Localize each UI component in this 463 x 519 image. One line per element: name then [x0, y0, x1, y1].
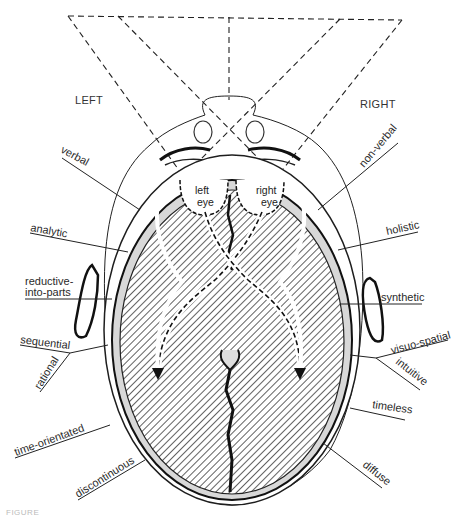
- left-eye-label-line1: left: [195, 184, 209, 196]
- right-eye-label-line2: eye: [261, 196, 278, 208]
- trait-timeless: timeless: [372, 398, 414, 416]
- figure-caption-fragment: FIGURE: [6, 508, 39, 517]
- trait-time-orientated: time-orientated: [13, 422, 86, 458]
- trait-into-parts: into-parts: [25, 286, 71, 298]
- trait-visuo-spatial: visuo-spatial: [389, 329, 451, 356]
- trait-synthetic: synthetic: [381, 291, 425, 303]
- trait-verbal: verbal: [59, 143, 91, 168]
- trait-sequential: sequential: [20, 333, 71, 351]
- trait-discontinuous: discontinuous: [73, 454, 137, 500]
- left-eye-label-line2: eye: [197, 196, 214, 208]
- trait-intuitive: intuitive: [394, 355, 431, 387]
- trait-non-verbal: non-verbal: [356, 122, 399, 170]
- trait-diffuse: diffuse: [361, 458, 394, 487]
- trait-rational: rational: [32, 354, 61, 391]
- left-side-label: LEFT: [75, 94, 103, 106]
- right-side-label: RIGHT: [360, 98, 396, 110]
- trait-holistic: holistic: [385, 218, 421, 237]
- brain-hemispheres-diagram: left eye right eye LEFT RIGHT verbal ana…: [0, 0, 463, 519]
- right-eye-label-line1: right: [256, 184, 277, 196]
